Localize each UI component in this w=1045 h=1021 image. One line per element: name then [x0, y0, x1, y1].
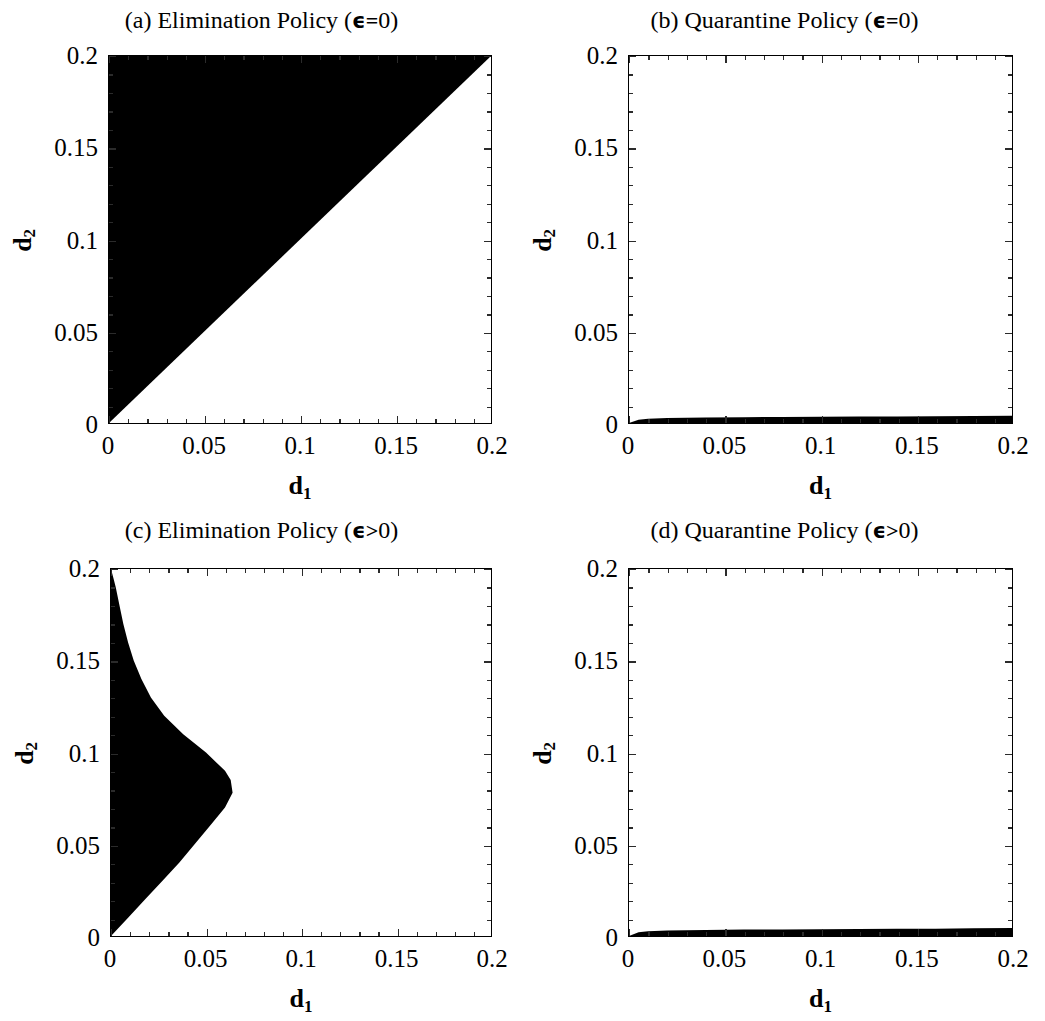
x-tick-label: 0.1: [285, 946, 316, 971]
y-tick-right: [1008, 772, 1012, 773]
y-tick-left: [111, 883, 115, 884]
panel-title-suffix: ): [390, 517, 398, 543]
x-tick-label: 0.1: [805, 946, 836, 971]
y-tick-right: [487, 370, 491, 371]
y-tick-right: [487, 388, 491, 389]
x-tick-bottom: [976, 419, 977, 423]
x-tick-label: 0.1: [805, 433, 836, 458]
x-tick-top: [435, 56, 436, 60]
y-tick-right: [487, 606, 491, 607]
y-tick-left: [629, 130, 633, 131]
y-tick-left: [111, 698, 115, 699]
y-tick-left: [629, 93, 633, 94]
y-tick-right: [1005, 148, 1012, 149]
x-tick-top: [668, 56, 669, 60]
x-tick-top: [245, 569, 246, 573]
x-tick-bottom: [648, 419, 649, 423]
y-tick-right: [487, 772, 491, 773]
y-tick-left: [111, 901, 115, 902]
x-tick-top: [918, 56, 919, 63]
y-tick-right: [1008, 204, 1012, 205]
x-tick-top: [879, 569, 880, 573]
y-axis-title-subscript: 2: [540, 741, 559, 750]
y-tick-left: [629, 827, 633, 828]
y-tick-left: [109, 314, 113, 315]
x-tick-bottom: [340, 932, 341, 936]
x-tick-bottom: [706, 932, 707, 936]
x-tick-bottom: [860, 419, 861, 423]
y-tick-left: [629, 388, 633, 389]
y-axis-title-base: d: [528, 750, 557, 764]
y-axis-title-base: d: [8, 237, 37, 251]
x-tick-bottom: [995, 932, 996, 936]
y-tick-label: 0: [606, 925, 619, 950]
condition-value: 0: [378, 7, 390, 33]
y-tick-right: [1008, 698, 1012, 699]
y-tick-right: [1008, 222, 1012, 223]
x-tick-top: [802, 569, 803, 573]
y-tick-left: [629, 407, 633, 408]
x-tick-top: [339, 56, 340, 60]
y-tick-left: [629, 883, 633, 884]
x-axis-title-subscript: 1: [823, 997, 832, 1016]
y-tick-right: [484, 569, 491, 570]
y-tick-left: [109, 185, 113, 186]
x-tick-top: [186, 56, 187, 60]
x-tick-bottom: [879, 419, 880, 423]
y-tick-label: 0.2: [587, 556, 618, 581]
x-tick-label: 0.2: [476, 433, 507, 458]
panel-title-suffix: ): [911, 7, 919, 33]
x-tick-bottom: [995, 419, 996, 423]
y-tick-left: [109, 222, 113, 223]
x-tick-bottom: [745, 932, 746, 936]
x-tick-bottom: [398, 929, 399, 936]
y-tick-right: [1008, 790, 1012, 791]
shaded-region-c: [111, 569, 491, 936]
x-tick-top: [321, 569, 322, 573]
shaded-region-a: [109, 56, 491, 423]
x-tick-top: [648, 56, 649, 60]
y-tick-label: 0.2: [587, 43, 618, 68]
x-axis-title: d1: [108, 471, 492, 504]
x-tick-bottom: [474, 419, 475, 423]
y-tick-left: [111, 790, 115, 791]
x-tick-top: [167, 56, 168, 60]
y-tick-right: [484, 241, 491, 242]
x-tick-top: [263, 56, 264, 60]
y-tick-label: 0: [86, 412, 99, 437]
x-axis-title-base: d: [809, 471, 823, 500]
x-tick-bottom: [282, 419, 283, 423]
x-tick-bottom: [167, 419, 168, 423]
x-tick-top: [899, 56, 900, 60]
y-tick-right: [487, 717, 491, 718]
y-tick-right: [1008, 130, 1012, 131]
x-tick-bottom: [128, 419, 129, 423]
x-tick-top: [130, 569, 131, 573]
plot-frame-a: [108, 55, 492, 424]
y-tick-right: [487, 351, 491, 352]
x-tick-bottom: [109, 416, 110, 423]
x-tick-label: 0.05: [702, 433, 746, 458]
x-tick-bottom: [186, 419, 187, 423]
y-tick-left: [629, 624, 633, 625]
x-tick-bottom: [416, 419, 417, 423]
y-tick-left: [109, 93, 113, 94]
plot-area-b: [629, 56, 1012, 423]
y-axis-title: d2: [8, 220, 41, 260]
y-tick-left: [629, 864, 633, 865]
y-tick-label: 0.05: [574, 832, 618, 857]
y-tick-right: [1008, 111, 1012, 112]
x-tick-bottom: [264, 932, 265, 936]
panel-a: (a) Elimination Policy (ϵ=0)00.050.10.15…: [0, 0, 523, 510]
panel-title-d: (d) Quarantine Policy (ϵ>0): [523, 516, 1045, 545]
x-tick-label: 0: [622, 433, 635, 458]
y-tick-right: [1008, 901, 1012, 902]
x-tick-bottom: [822, 416, 823, 423]
panel-title-c: (c) Elimination Policy (ϵ>0): [0, 516, 523, 545]
x-tick-bottom: [783, 932, 784, 936]
x-tick-top: [128, 56, 129, 60]
x-tick-bottom: [899, 419, 900, 423]
x-tick-top: [436, 569, 437, 573]
y-tick-right: [1008, 643, 1012, 644]
y-tick-right: [487, 296, 491, 297]
